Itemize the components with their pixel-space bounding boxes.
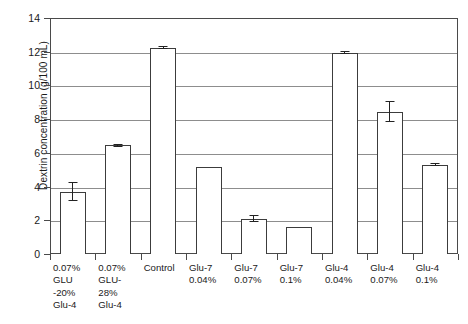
x-axis-tick-label: Glu-40.1% [416, 262, 458, 287]
error-bar-stem [389, 101, 390, 121]
x-axis-tick-label: Glu-70.07% [234, 262, 276, 287]
error-bar-cap-bottom [431, 165, 440, 166]
x-axis-tick-label: 0.07%GLU-20%Glu-4 [53, 262, 95, 312]
y-axis-tick-label: 10 [14, 80, 40, 91]
bar-group [277, 18, 322, 254]
error-bar [249, 215, 258, 222]
x-axis-tick-label: Glu-70.1% [280, 262, 322, 287]
error-bar-cap-bottom [113, 146, 122, 147]
x-axis-tick [322, 254, 323, 260]
y-axis-tick-label: 2 [14, 215, 40, 226]
x-axis-tick [277, 254, 278, 260]
bar-group [413, 18, 458, 254]
error-bar-cap-bottom [249, 221, 258, 222]
error-bar-cap-top [159, 46, 168, 47]
x-axis-tick-label: Glu-70.04% [189, 262, 231, 287]
x-axis-tick [458, 254, 459, 260]
y-axis-tick-label: 12 [14, 47, 40, 58]
error-bar [159, 46, 168, 49]
bar [332, 53, 358, 254]
error-bar [431, 163, 440, 166]
y-axis-tick-label: 6 [14, 148, 40, 159]
error-bar-stem [72, 182, 73, 201]
error-bar [340, 51, 349, 54]
y-axis-tick-label: 0 [14, 249, 40, 260]
bar [196, 167, 222, 254]
error-bar-cap-bottom [385, 121, 394, 122]
x-axis-tick-label: Glu-40.04% [325, 262, 367, 287]
error-bar-cap-bottom [159, 48, 168, 49]
x-axis-tick-label: 0.07%GLU-28%Glu-4 [98, 262, 140, 312]
bar-chart: Dextrin concentration (g/100 mL) 0246810… [0, 0, 468, 324]
bar [150, 48, 176, 255]
bar-group [141, 18, 186, 254]
bars-layer [50, 18, 458, 254]
error-bar [68, 182, 77, 201]
x-axis-tick [186, 254, 187, 260]
error-bar [385, 101, 394, 121]
error-bar-cap-top [385, 101, 394, 102]
bar-group [367, 18, 412, 254]
error-bar-cap-top [113, 144, 122, 145]
bar [377, 112, 403, 254]
error-bar-cap-bottom [68, 200, 77, 201]
x-axis-tick [231, 254, 232, 260]
x-axis-labels: 0.07%GLU-20%Glu-40.07%GLU-28%Glu-4Contro… [50, 262, 458, 322]
bar [422, 165, 448, 254]
bar-group [186, 18, 231, 254]
y-axis-tick-label: 4 [14, 182, 40, 193]
x-axis-tick [95, 254, 96, 260]
bar [105, 145, 131, 254]
x-axis-tick-label: Glu-40.07% [370, 262, 412, 287]
error-bar [113, 144, 122, 147]
bar-group [231, 18, 276, 254]
bar-group [95, 18, 140, 254]
x-axis-tick [367, 254, 368, 260]
bar-group [50, 18, 95, 254]
y-axis-tick-label: 8 [14, 114, 40, 125]
error-bar-cap-bottom [340, 53, 349, 54]
bar [286, 227, 312, 254]
x-axis-tick [413, 254, 414, 260]
x-axis-tick [141, 254, 142, 260]
x-axis-tick [50, 254, 51, 260]
bar [60, 192, 86, 254]
error-bar-cap-top [249, 215, 258, 216]
y-axis-tick-label: 14 [14, 13, 40, 24]
error-bar-cap-top [431, 163, 440, 164]
bar [241, 219, 267, 254]
error-bar-cap-top [68, 182, 77, 183]
bar-group [322, 18, 367, 254]
x-axis-tick-label: Control [144, 262, 186, 274]
error-bar-cap-top [340, 51, 349, 52]
